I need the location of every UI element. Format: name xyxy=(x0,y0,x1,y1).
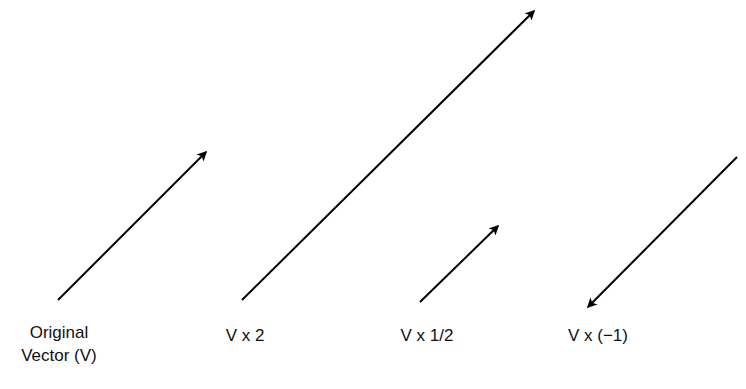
vector-arrow-times-negative-one xyxy=(588,157,737,307)
label-v-times-negative-one: V x (−1) xyxy=(548,324,648,347)
label-original-line1: Original xyxy=(14,321,104,344)
vector-arrow-times-half xyxy=(420,226,498,302)
vector-arrow-times-two xyxy=(242,11,534,300)
label-v-times-two: V x 2 xyxy=(200,324,290,347)
label-original-line2: Vector (V) xyxy=(14,344,104,367)
vector-arrow-original xyxy=(58,152,206,300)
label-original-vector: Original Vector (V) xyxy=(14,321,104,367)
label-v-times-half: V x 1/2 xyxy=(382,324,472,347)
